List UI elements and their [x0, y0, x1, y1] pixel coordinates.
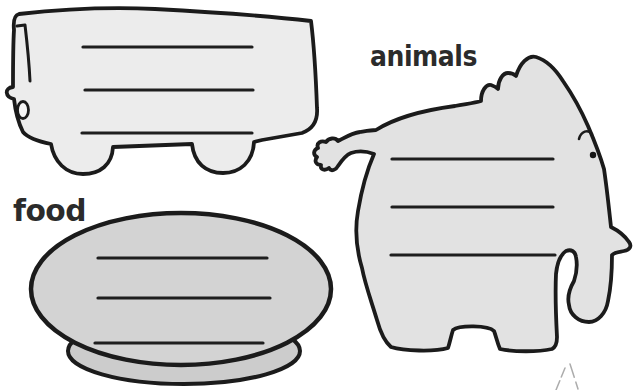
- bus-headlight-icon: [18, 102, 29, 119]
- sketch-caret-mark: [556, 364, 578, 390]
- elephant-shape: [314, 57, 630, 352]
- label-food: food: [13, 193, 86, 228]
- worksheet-page: animals food: [0, 0, 637, 390]
- bus-shape: [7, 8, 317, 174]
- elephant-eye: [590, 152, 596, 158]
- worksheet-canvas: animals food: [0, 0, 637, 390]
- label-animals: animals: [370, 40, 477, 73]
- plate-shape: [31, 213, 331, 384]
- elephant-outline: [314, 57, 630, 352]
